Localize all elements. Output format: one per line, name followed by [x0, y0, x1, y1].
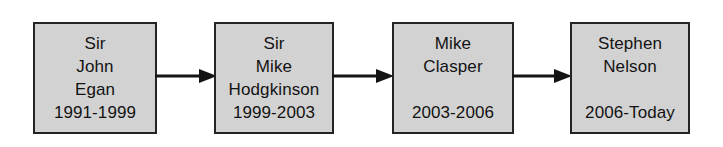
arrow-right-icon: [332, 68, 394, 84]
flow-node-1-name-line-1: Sir: [84, 32, 105, 55]
flow-node-4[interactable]: Stephen Nelson 2006-Today: [570, 22, 690, 134]
flow-node-2-name-line-1: Sir: [263, 32, 284, 55]
flow-node-1[interactable]: Sir John Egan 1991-1999: [33, 22, 157, 134]
flow-node-3-term: 2003-2006: [412, 101, 494, 124]
flow-node-4-name: Stephen Nelson: [598, 32, 662, 78]
flow-node-3[interactable]: Mike Clasper 2003-2006: [392, 22, 514, 134]
flow-node-3-name-line-2: Clasper: [423, 55, 482, 78]
flow-node-1-name-line-2: John: [76, 55, 113, 78]
flow-node-4-name-line-1: Stephen: [598, 32, 662, 55]
flow-node-1-name: Sir John Egan: [75, 32, 115, 101]
flow-connector-1: [155, 68, 217, 84]
flow-node-4-term: 2006-Today: [585, 101, 675, 124]
arrow-right-icon: [155, 68, 217, 84]
arrow-right-icon: [512, 68, 572, 84]
flow-node-2[interactable]: Sir Mike Hodgkinson 1999-2003: [214, 22, 334, 134]
flow-node-4-name-line-2: Nelson: [603, 55, 657, 78]
flow-connector-3: [512, 68, 572, 84]
flow-node-2-name-line-2: Mike: [256, 55, 292, 78]
flow-node-2-term: 1999-2003: [233, 101, 315, 124]
flow-node-2-name: Sir Mike Hodgkinson: [229, 32, 320, 101]
flow-node-1-name-line-3: Egan: [75, 78, 115, 101]
flow-node-3-name-line-1: Mike: [435, 32, 471, 55]
flow-node-3-name: Mike Clasper: [423, 32, 482, 78]
flow-connector-2: [332, 68, 394, 84]
flow-node-1-term: 1991-1999: [54, 101, 136, 124]
flow-node-2-name-line-3: Hodgkinson: [229, 78, 320, 101]
succession-flow-diagram: Sir John Egan 1991-1999 Sir Mike Hodgkin…: [0, 0, 723, 147]
